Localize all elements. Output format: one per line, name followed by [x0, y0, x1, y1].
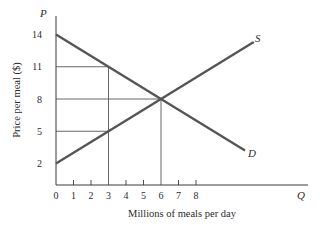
demand-curve	[56, 35, 245, 151]
y-tick-label: 11	[32, 61, 42, 72]
x-tick-label: 5	[141, 190, 146, 201]
y-tick-label: 14	[32, 29, 42, 40]
x-tick-label: 6	[159, 190, 164, 201]
x-tick-label: 2	[89, 190, 94, 201]
y-tick-label: 5	[37, 126, 42, 137]
y-tick-label: 8	[37, 94, 42, 105]
x-tick-label: 3	[106, 190, 111, 201]
supply-curve-label: S	[255, 32, 261, 44]
reference-lines	[56, 67, 161, 185]
y-axis-symbol: P	[39, 7, 47, 19]
supply-curve	[56, 42, 254, 163]
x-tick-label: 0	[54, 190, 59, 201]
supply-demand-chart: 012345678 2581114 P Q S D Millions of me…	[0, 0, 325, 225]
y-tick-label: 2	[37, 158, 42, 169]
demand-curve-label: D	[247, 147, 256, 159]
x-tick-label: 7	[176, 190, 181, 201]
y-axis-title: Price per meal ($)	[11, 62, 23, 138]
x-axis-title: Millions of meals per day	[128, 208, 237, 219]
x-axis-symbol: Q	[297, 189, 305, 201]
x-tick-label: 8	[194, 190, 199, 201]
x-tick-label: 4	[124, 190, 129, 201]
x-tick-label: 1	[71, 190, 76, 201]
x-ticks: 012345678	[54, 180, 199, 201]
y-ticks: 2581114	[32, 29, 42, 169]
axes	[56, 16, 308, 185]
